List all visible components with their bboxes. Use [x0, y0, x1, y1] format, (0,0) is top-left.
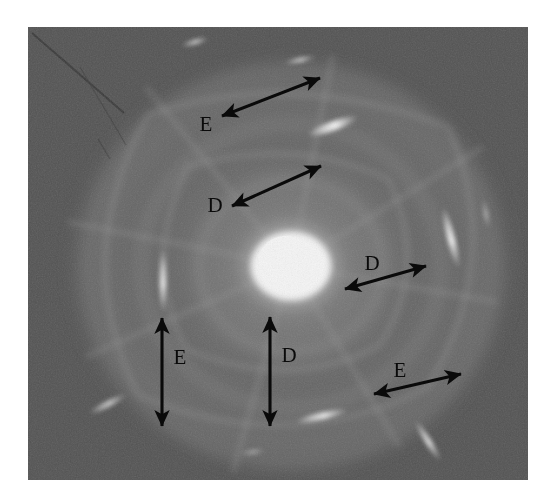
figure-root: E D D E D E	[0, 0, 550, 496]
plate-svg	[28, 27, 528, 480]
plate-tint	[28, 27, 528, 480]
diffraction-plate-image	[28, 27, 528, 480]
